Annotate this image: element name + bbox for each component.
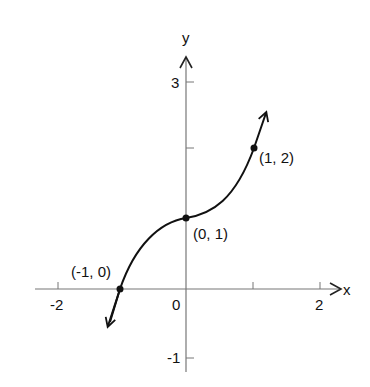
point-label-1-2: (1, 2) bbox=[259, 150, 294, 165]
function-graph bbox=[0, 0, 370, 387]
x-tick-label-2: 2 bbox=[315, 297, 323, 312]
x-tick-marks bbox=[58, 282, 320, 289]
x-axis-label: x bbox=[343, 282, 351, 297]
point-neg1-0 bbox=[117, 286, 124, 293]
point-1-2 bbox=[251, 145, 258, 152]
x-tick-label-neg2: -2 bbox=[50, 297, 63, 312]
curve-lower-arrow bbox=[108, 289, 120, 326]
point-0-1 bbox=[183, 215, 190, 222]
origin-label: 0 bbox=[172, 297, 180, 312]
y-tick-label-3: 3 bbox=[171, 75, 179, 90]
point-label-0-1: (0, 1) bbox=[193, 226, 228, 241]
y-tick-label-neg1: -1 bbox=[167, 350, 180, 365]
y-axis-label: y bbox=[182, 30, 190, 45]
point-label-neg1-0: (-1, 0) bbox=[71, 264, 111, 279]
